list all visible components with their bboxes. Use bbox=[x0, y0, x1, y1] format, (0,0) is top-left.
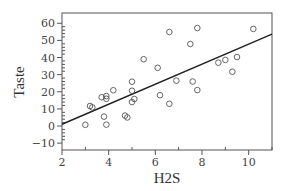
y-tick-label: 20 bbox=[41, 86, 55, 99]
data-point bbox=[251, 26, 257, 32]
y-tick-label: −10 bbox=[32, 137, 55, 150]
data-point bbox=[157, 92, 163, 98]
data-point bbox=[129, 79, 135, 85]
data-point bbox=[234, 54, 240, 60]
y-tick-label: 10 bbox=[41, 103, 55, 116]
y-tick-label: 50 bbox=[41, 34, 55, 47]
y-tick-label: 60 bbox=[41, 17, 55, 30]
x-tick-label: 10 bbox=[242, 156, 256, 169]
data-point bbox=[167, 29, 173, 35]
regression-line bbox=[62, 34, 272, 124]
y-tick-label: 0 bbox=[48, 120, 55, 133]
x-tick-label: 2 bbox=[59, 156, 66, 169]
data-point bbox=[141, 56, 147, 62]
data-point bbox=[167, 101, 173, 107]
data-point bbox=[111, 87, 117, 93]
data-point bbox=[188, 41, 194, 47]
data-point bbox=[101, 114, 107, 120]
data-point bbox=[104, 122, 110, 128]
y-axis: −100102030405060 bbox=[32, 17, 65, 150]
data-point bbox=[216, 60, 222, 66]
data-point bbox=[155, 65, 161, 71]
data-point bbox=[195, 25, 201, 31]
data-point bbox=[174, 78, 180, 84]
x-tick-label: 4 bbox=[105, 156, 112, 169]
x-tick-label: 8 bbox=[199, 156, 206, 169]
x-axis-title: H2S bbox=[154, 170, 181, 186]
data-point bbox=[83, 122, 89, 128]
y-tick-label: 30 bbox=[41, 69, 55, 82]
fit-line bbox=[62, 34, 272, 124]
data-point bbox=[190, 79, 196, 85]
data-point bbox=[195, 87, 201, 93]
scatter-chart: −100102030405060 246810 H2S Taste bbox=[0, 0, 286, 191]
data-point bbox=[230, 69, 236, 75]
y-axis-title: Taste bbox=[11, 66, 27, 98]
data-point bbox=[223, 57, 229, 63]
y-tick-label: 40 bbox=[41, 52, 55, 65]
data-points bbox=[83, 25, 257, 127]
data-point bbox=[129, 88, 135, 94]
x-tick-label: 6 bbox=[152, 156, 159, 169]
